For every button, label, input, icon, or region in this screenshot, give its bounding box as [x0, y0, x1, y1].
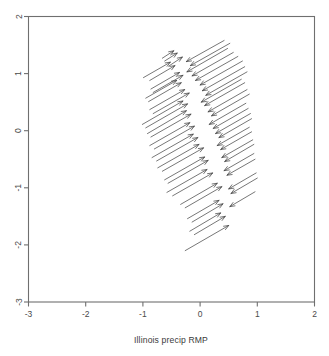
- vector-arrowhead: [177, 57, 182, 62]
- vector-arrow: [173, 173, 213, 196]
- x-tick-label: 1: [255, 309, 260, 319]
- x-axis-label: Illinois precip RMP: [134, 335, 208, 345]
- vector-arrowhead: [217, 141, 223, 145]
- y-tick-label: 2: [14, 14, 24, 19]
- vector-arrowhead: [177, 75, 183, 79]
- vector-shaft: [227, 159, 255, 175]
- vector-arrowhead: [184, 123, 190, 127]
- vector-arrow: [192, 52, 233, 75]
- y-tick-label: -3: [14, 298, 24, 306]
- vector-arrow: [147, 111, 186, 134]
- vector-arrowhead: [192, 138, 198, 142]
- vector-arrow: [206, 72, 247, 95]
- vector-arrows-layer: [142, 40, 257, 250]
- y-tick-label: -1: [14, 184, 24, 192]
- vector-shaft: [154, 126, 194, 149]
- vector-arrowhead: [219, 133, 225, 137]
- vector-shaft: [216, 114, 251, 134]
- vector-arrow: [157, 138, 198, 161]
- vector-arrowhead: [190, 61, 196, 65]
- vector-shaft: [147, 111, 186, 134]
- vector-arrowhead: [200, 81, 206, 85]
- vector-arrowhead: [212, 111, 218, 115]
- vector-arrowhead: [186, 57, 192, 61]
- vector-arrowhead: [201, 98, 207, 102]
- vector-arrowhead: [220, 216, 226, 220]
- vector-arrow: [231, 178, 257, 193]
- vector-shaft: [168, 160, 208, 183]
- vector-arrow: [162, 51, 173, 58]
- vector-arrowhead: [225, 157, 231, 161]
- vector-shaft: [231, 178, 257, 193]
- vector-arrow: [185, 187, 222, 208]
- vector-arrowhead: [181, 111, 187, 115]
- vector-arrowhead: [176, 83, 182, 87]
- vector-shaft: [222, 140, 253, 158]
- vector-arrow: [152, 134, 193, 157]
- vector-field-plot: -3-2-1012 -3-2-1012 Illinois precip RMP: [0, 0, 329, 356]
- vector-arrowhead: [208, 107, 214, 111]
- vector-shaft: [146, 104, 188, 128]
- vector-shaft: [162, 51, 173, 58]
- vector-arrowhead: [179, 90, 185, 94]
- vector-shaft: [185, 225, 228, 250]
- vector-arrowhead: [198, 148, 204, 152]
- vector-shaft: [206, 72, 247, 95]
- x-axis-ticks: [29, 302, 315, 307]
- vector-arrowhead: [217, 204, 223, 208]
- x-tick-label: -2: [82, 309, 90, 319]
- vector-arrowhead: [196, 76, 202, 80]
- vector-arrowhead: [207, 173, 213, 177]
- vector-shaft: [150, 66, 175, 81]
- vector-arrow: [158, 144, 199, 167]
- vector-arrow: [196, 56, 238, 80]
- vector-arrowhead: [202, 86, 208, 90]
- y-tick-label: 1: [14, 71, 24, 76]
- vector-arrowhead: [216, 187, 222, 191]
- vector-arrow: [153, 75, 183, 92]
- vector-shaft: [143, 62, 170, 77]
- vector-arrowhead: [206, 91, 212, 95]
- vector-arrowhead: [212, 183, 218, 187]
- vector-arrow: [143, 62, 170, 77]
- vector-arrowhead: [168, 51, 174, 56]
- vector-arrow: [187, 48, 228, 71]
- vector-arrow: [142, 101, 183, 124]
- vector-arrow: [167, 170, 207, 193]
- vector-shaft: [162, 148, 203, 171]
- vector-arrowhead: [182, 104, 188, 108]
- vector-shaft: [201, 79, 241, 102]
- vector-arrowhead: [222, 153, 228, 157]
- vector-shaft: [196, 56, 238, 80]
- vector-arrowhead: [171, 80, 177, 84]
- y-axis-tick-labels: -3-2-1012: [14, 14, 24, 306]
- vector-shaft: [142, 101, 183, 124]
- plot-frame: [29, 17, 315, 303]
- vector-shaft: [186, 40, 224, 61]
- vector-shaft: [190, 43, 229, 65]
- vector-arrow: [230, 192, 255, 207]
- vector-arrowhead: [172, 53, 178, 58]
- x-tick-label: -1: [139, 309, 147, 319]
- vector-arrow: [169, 57, 183, 66]
- x-axis-tick-labels: -3-2-1012: [25, 309, 317, 319]
- vector-arrow: [154, 126, 194, 149]
- plot-figure: -3-2-1012 -3-2-1012 Illinois precip RMP: [0, 0, 329, 356]
- vector-shaft: [169, 57, 183, 66]
- vector-arrowhead: [231, 189, 237, 193]
- vector-arrowhead: [185, 114, 191, 118]
- vector-arrow: [190, 43, 229, 65]
- vector-arrowhead: [213, 124, 219, 128]
- vector-arrowhead: [221, 145, 227, 149]
- vector-shaft: [153, 75, 183, 92]
- vector-shaft: [157, 138, 198, 161]
- vector-arrow: [162, 148, 203, 171]
- vector-shaft: [192, 52, 233, 75]
- vector-arrowhead: [169, 66, 175, 70]
- vector-arrow: [168, 160, 208, 183]
- vector-arrow: [186, 40, 224, 61]
- y-tick-label: -2: [14, 241, 24, 249]
- y-axis-ticks: [24, 17, 29, 303]
- vector-arrowhead: [209, 120, 215, 124]
- vector-arrow: [222, 140, 253, 158]
